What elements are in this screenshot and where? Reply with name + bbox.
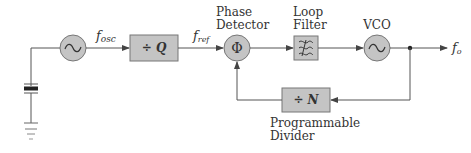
loop-filter-title-1: Loop bbox=[293, 5, 323, 19]
vco bbox=[364, 35, 390, 61]
programmable-divider-title-1: Programmable bbox=[270, 116, 360, 130]
phase-detector-title-2: Detector bbox=[216, 18, 269, 32]
programmable-divider-block: ÷ N bbox=[282, 88, 330, 112]
phase-detector: Φ bbox=[224, 35, 250, 61]
loop-filter-title-2: Filter bbox=[293, 18, 327, 32]
phase-detector-title-1: Phase bbox=[216, 5, 252, 19]
f-osc-label: fosc bbox=[95, 28, 116, 44]
loop-filter-block bbox=[294, 36, 318, 60]
divide-q-label: ÷ Q bbox=[142, 41, 167, 55]
f-out-label: fo bbox=[451, 40, 462, 56]
ground-icon bbox=[24, 123, 38, 139]
phi-icon: Φ bbox=[231, 40, 242, 56]
divide-n-label: ÷ N bbox=[293, 93, 319, 107]
reference-oscillator bbox=[60, 35, 86, 61]
pll-diagram: fosc ÷ Q fref Phase Detector Φ Loop Filt… bbox=[0, 0, 471, 153]
reference-divider-block: ÷ Q bbox=[130, 35, 178, 61]
f-ref-label: fref bbox=[192, 28, 211, 44]
vco-title: VCO bbox=[362, 18, 391, 32]
crystal-branch bbox=[24, 48, 60, 139]
programmable-divider-title-2: Divider bbox=[270, 129, 315, 143]
